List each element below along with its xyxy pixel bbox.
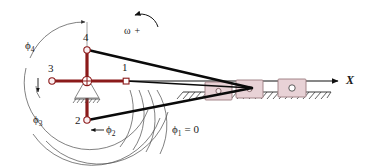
omega-sign: +	[135, 25, 141, 36]
phi-3-subscript: 3	[39, 119, 43, 128]
x-axis-label: X	[346, 74, 354, 86]
phi-3-label: ϕ3	[33, 114, 43, 128]
phi-4-subscript: 4	[31, 45, 35, 54]
joint-pin-1	[123, 78, 129, 84]
mechanism-figure: 4 2 3 1 ϕ4 ϕ3 ϕ2 ϕ1= 0 ω+ X	[0, 0, 366, 167]
central-pivot	[82, 76, 91, 85]
arc-phi-4	[30, 22, 85, 58]
arc-phi-2b	[46, 112, 168, 164]
joint-pin-4	[84, 47, 90, 53]
slider-pin	[216, 88, 221, 93]
coupler-link-2	[88, 88, 252, 120]
phi-2-subscript: 2	[112, 129, 116, 138]
omega-symbol: ω	[124, 25, 131, 36]
omega-label: ω+	[124, 26, 140, 36]
joint-label-2: 2	[75, 115, 81, 126]
phi-4-label: ϕ4	[25, 40, 35, 54]
slider-blocks	[205, 79, 306, 100]
joint-pin-3	[49, 78, 55, 84]
arc-inner-3	[146, 90, 155, 152]
arc-inner-1	[120, 90, 133, 147]
arc-inner-2	[133, 90, 144, 150]
arc-phi-2	[33, 118, 160, 165]
joint-label-3: 3	[48, 63, 54, 74]
phi-2-label: ϕ2	[106, 124, 116, 138]
phi-1-equals-zero: = 0	[185, 123, 199, 135]
phi-1-subscript: 1	[178, 129, 182, 138]
mechanism-drawing	[0, 0, 366, 167]
slider-pin	[289, 85, 295, 91]
joint-label-1: 1	[122, 62, 128, 73]
phi-1-label: ϕ1= 0	[172, 124, 199, 138]
joint-label-4: 4	[83, 32, 89, 43]
joint-pin-2	[84, 117, 90, 123]
